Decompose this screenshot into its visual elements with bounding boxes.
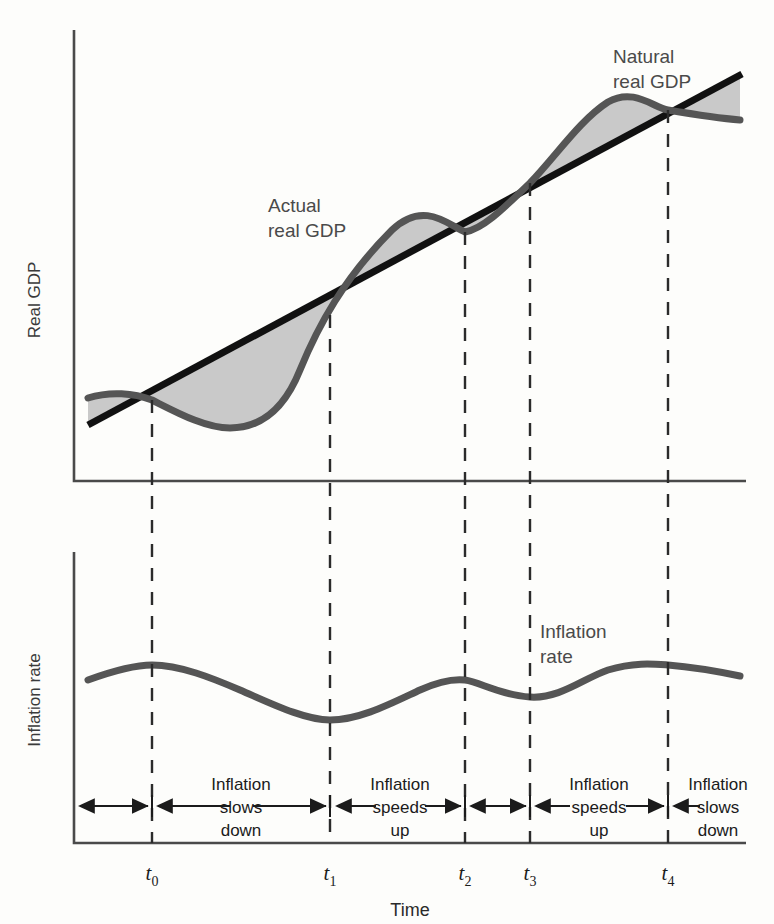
segment-5-line1: Inflation [688,775,748,794]
inflation-rate-label-line2: rate [540,646,573,667]
natural-real-gdp-label-line2: real GDP [613,71,691,92]
top-panel-y-axis-label: Real GDP [25,262,44,339]
tick-label-t1: t1 [324,861,337,889]
figure-canvas: Real GDP Natural real GDP Actual real GD… [0,0,774,924]
segment-1-line3: down [221,821,262,840]
segment-1-line2: slows [220,798,263,817]
segment-5-line2: slows [697,798,740,817]
segment-4-line1: Inflation [569,775,629,794]
segment-5-line3: down [698,821,739,840]
actual-real-gdp-label-line2: real GDP [268,220,346,241]
tick-label-t2: t2 [459,861,472,889]
natural-real-gdp-line [88,74,742,425]
tick-sub-t1: 1 [329,874,336,889]
tick-sub-t4: 4 [667,874,674,889]
segment-2-line3: up [391,821,410,840]
tick-label-t0: t0 [146,861,159,889]
inflation-rate-label-line1: Inflation [540,621,607,642]
actual-real-gdp-label-line1: Actual [268,195,321,216]
tick-sub-t3: 3 [529,874,536,889]
segment-2-line1: Inflation [370,775,430,794]
segment-1-line1: Inflation [211,775,271,794]
x-axis-label: Time [390,900,429,920]
segment-4-line2: speeds [572,798,627,817]
x-axis-tick-labels: t0 t1 t2 t3 t4 [146,861,675,889]
tick-label-t4: t4 [662,861,675,889]
segment-4-line3: up [590,821,609,840]
tick-label-t3: t3 [524,861,537,889]
business-cycle-diagram: Real GDP Natural real GDP Actual real GD… [0,0,774,924]
natural-real-gdp-label-line1: Natural [613,46,674,67]
tick-sub-t0: 0 [151,874,158,889]
tick-sub-t2: 2 [464,874,471,889]
segment-2-line2: speeds [373,798,428,817]
inflation-rate-curve [88,664,740,720]
bottom-panel-y-axis-label: Inflation rate [25,653,44,747]
